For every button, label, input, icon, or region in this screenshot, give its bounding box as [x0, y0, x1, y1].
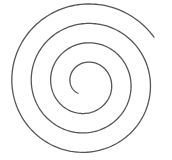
- spiral-curve: [12, 4, 154, 152]
- spiral-figure: [0, 0, 172, 160]
